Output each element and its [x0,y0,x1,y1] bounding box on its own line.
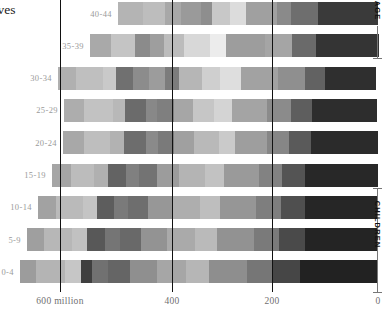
bar-segment [217,228,254,251]
bar-segment [265,34,293,57]
bar-segment [179,67,202,90]
bar-segment [254,228,279,251]
bar-segment [194,131,218,154]
gridline-600 [60,0,61,292]
bar-segment [128,196,148,219]
age-band-label: 5-9 [0,235,21,245]
stacked-bar [27,228,377,251]
bar-row: 40-44 [0,0,392,27]
bar-segment [157,164,179,187]
bar-segment [224,164,259,187]
bar-segment [281,196,305,219]
bar-segment [256,196,280,219]
bar-segment [83,196,98,219]
bar-segment [311,131,378,154]
bar-segment [210,34,226,57]
bar-segment [76,67,103,90]
bar-segment [81,260,92,283]
bar-segment [201,2,213,25]
bar-segment [84,99,113,122]
x-tick-label: 400 [164,296,179,306]
bar-segment [130,260,157,283]
children-bracket: CHILDREN [365,188,391,292]
x-axis: 600 million4002000 [0,292,392,316]
x-tick-label: 0 [375,296,380,306]
bar-row: 15-19 [0,162,392,189]
bar-segment [174,131,194,154]
bar-segment [133,67,149,90]
stacked-bar [52,164,378,187]
bar-row: 30-34 [0,65,392,92]
bar-segment [27,228,44,251]
bar-segment [277,2,291,25]
bar-segment [110,131,125,154]
bar-row: 0-4 [0,258,392,285]
bar-segment [278,67,305,90]
bracket-cap [373,188,382,189]
bracket-rule [377,26,378,58]
bar-segment [200,196,220,219]
age-band-label: 10-14 [0,202,32,212]
bar-segment [259,164,282,187]
bar-segment [126,164,139,187]
bar-segment [305,67,325,90]
bar-row: 20-24 [0,129,392,156]
bar-segment [205,164,224,187]
bar-segment [94,164,108,187]
bar-segment [173,196,201,219]
bar-segment [65,260,82,283]
bar-segment [105,228,120,251]
age-band-label: 20-24 [0,138,57,148]
stacked-bar [64,99,377,122]
bar-segment [273,260,300,283]
bar-segment [103,67,117,90]
stacked-bar [38,196,377,219]
bar-segment [181,2,201,25]
bar-segment [125,99,145,122]
bar-segment [20,260,36,283]
stacked-bar [20,260,378,283]
bar-segment [139,164,157,187]
gridline-200 [272,0,273,292]
bar-segment [279,228,304,251]
bar-row: 25-29 [0,97,392,124]
stacked-bar [90,34,379,57]
bar-segment [195,228,216,251]
bar-segment [146,131,159,154]
stacked-bar [63,131,378,154]
bar-segment [111,34,134,57]
population-by-age-chart: emselvesn maymid. 40-4435-3930-3425-2920… [0,0,392,316]
bar-segment [267,131,288,154]
bar-segment [150,34,164,57]
bar-segment [312,99,377,122]
bar-segment [214,99,232,122]
x-tick-label: 200 [264,296,279,306]
bar-segment [164,34,184,57]
bar-segment [289,131,311,154]
stacked-bar [118,2,378,25]
bracket-cap [373,292,382,293]
bar-segment [38,196,56,219]
bar-segment [186,260,208,283]
bracket-cap [373,58,382,59]
stacked-bar [58,67,376,90]
bar-segment [143,2,164,25]
bar-segment [120,228,141,251]
bar-segment [90,34,111,57]
age-band-label: 35-39 [24,41,84,51]
children-bracket-label: CHILDREN [373,201,382,249]
bar-segment [135,34,151,57]
bar-segment [292,34,315,57]
bar-row: 5-9 [0,226,392,253]
bar-segment [179,164,204,187]
bar-row: 35-39 [0,32,392,59]
bar-segment [63,131,84,154]
bar-segment [108,260,130,283]
bar-segment [267,99,290,122]
bar-segment [209,260,247,283]
bar-segment [212,2,230,25]
bar-segment [108,164,126,187]
bar-segment [226,34,265,57]
bar-segment [64,99,84,122]
bar-segment [146,99,158,122]
